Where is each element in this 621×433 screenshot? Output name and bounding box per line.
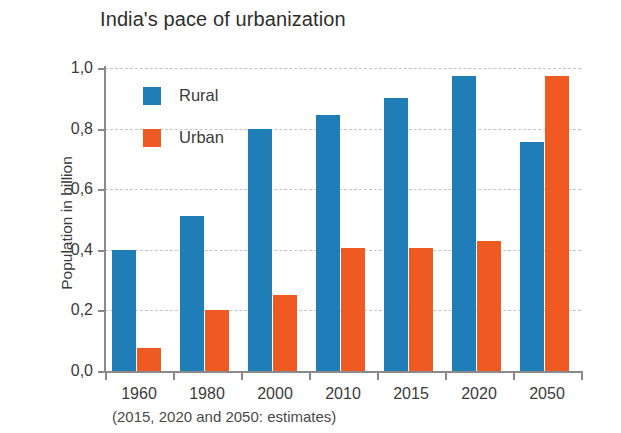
bar-rural-2015 — [384, 98, 408, 371]
bar-urban-2015 — [409, 248, 433, 371]
bar-rural-2050 — [520, 142, 544, 371]
legend-label: Rural — [179, 86, 218, 105]
x-tick-mark — [581, 371, 583, 380]
x-tick-label-1960: 1960 — [104, 385, 174, 403]
x-tick-mark — [241, 371, 243, 380]
bar-rural-2000 — [248, 129, 272, 371]
bar-urban-2020 — [477, 241, 501, 371]
x-tick-mark — [377, 371, 379, 380]
bar-group — [309, 68, 377, 371]
y-tick-label: 0,4 — [71, 241, 93, 259]
bar-group — [241, 68, 309, 371]
bar-rural-2020 — [452, 76, 476, 371]
bar-rural-1960 — [112, 250, 136, 371]
bar-rural-1980 — [180, 216, 204, 371]
y-tick-label: 0,6 — [71, 180, 93, 198]
legend-item-rural[interactable]: Rural — [143, 86, 218, 105]
x-tick-label-2015: 2015 — [376, 385, 446, 403]
x-tick-mark — [309, 371, 311, 380]
chart-footnote: (2015, 2020 and 2050: estimates) — [112, 408, 336, 425]
bar-urban-2050 — [545, 76, 569, 371]
bar-rural-2010 — [316, 115, 340, 371]
x-tick-label-2010: 2010 — [308, 385, 378, 403]
chart-figure: India's pace of urbanization Population … — [0, 0, 621, 433]
plot-area: 0,00,20,40,60,81,0 — [105, 68, 581, 371]
y-tick-label: 1,0 — [71, 59, 93, 77]
bar-group — [377, 68, 445, 371]
bar-group — [513, 68, 581, 371]
legend-item-urban[interactable]: Urban — [143, 128, 224, 147]
chart-title: India's pace of urbanization — [100, 8, 346, 31]
bar-group — [105, 68, 173, 371]
bar-urban-1980 — [205, 310, 229, 371]
x-tick-label-2020: 2020 — [444, 385, 514, 403]
legend-label: Urban — [179, 128, 224, 147]
y-tick-label: 0,2 — [71, 301, 93, 319]
x-tick-label-2050: 2050 — [512, 385, 582, 403]
x-axis-line — [104, 371, 582, 373]
legend-swatch-urban-icon — [143, 129, 161, 147]
bar-group — [445, 68, 513, 371]
x-tick-mark — [173, 371, 175, 380]
bar-group — [173, 68, 241, 371]
y-tick-label: 0,8 — [71, 120, 93, 138]
bar-urban-1960 — [137, 348, 161, 371]
bar-urban-2010 — [341, 248, 365, 371]
y-tick-label: 0,0 — [71, 362, 93, 380]
bar-urban-2000 — [273, 295, 297, 371]
legend-swatch-rural-icon — [143, 87, 161, 105]
x-tick-label-1980: 1980 — [172, 385, 242, 403]
x-tick-label-2000: 2000 — [240, 385, 310, 403]
x-tick-mark — [105, 371, 107, 380]
x-tick-mark — [513, 371, 515, 380]
x-tick-mark — [445, 371, 447, 380]
